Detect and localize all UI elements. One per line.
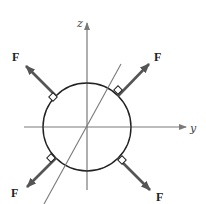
z-axis-label: z <box>76 17 83 30</box>
force-label-top-right: F <box>154 50 161 64</box>
force-diagram: z y F F F F <box>0 0 206 204</box>
force-label-bottom-left: F <box>11 186 18 200</box>
force-bottom-left <box>27 154 56 187</box>
force-bottom-right <box>118 156 150 190</box>
force-arrow-icon <box>26 66 56 96</box>
right-angle-marker-icon <box>49 93 57 101</box>
y-axis-label: y <box>189 122 197 135</box>
force-label-top-left: F <box>12 50 19 64</box>
force-arrow-icon <box>27 158 56 187</box>
force-top-left <box>26 66 57 101</box>
x-axis <box>44 64 121 204</box>
force-top-right <box>114 64 149 96</box>
force-arrow-icon <box>118 64 149 96</box>
force-label-bottom-right: F <box>156 190 163 204</box>
